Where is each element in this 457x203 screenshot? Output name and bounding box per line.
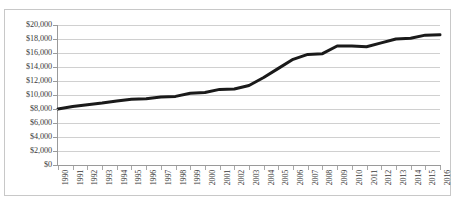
x-axis-tick [322, 166, 323, 170]
y-axis-tick [53, 67, 58, 68]
x-axis-tick [234, 166, 235, 170]
x-axis-tick [425, 166, 426, 170]
x-axis-tick [131, 166, 132, 170]
x-axis-tick [367, 166, 368, 170]
x-axis-tick [337, 166, 338, 170]
y-axis-tick [53, 151, 58, 152]
y-axis-tick [53, 137, 58, 138]
x-axis-tick [352, 166, 353, 170]
x-axis-tick [220, 166, 221, 170]
x-axis-tick [278, 166, 279, 170]
x-axis-tick [73, 166, 74, 170]
x-axis-tick [308, 166, 309, 170]
data-series-line [0, 0, 457, 203]
y-axis-tick [53, 123, 58, 124]
x-axis-tick [293, 166, 294, 170]
y-axis-tick [53, 81, 58, 82]
x-axis-tick [190, 166, 191, 170]
x-axis-tick [58, 166, 59, 170]
x-axis-tick [146, 166, 147, 170]
x-axis-tick [176, 166, 177, 170]
x-axis-tick [87, 166, 88, 170]
x-axis-tick [440, 166, 441, 170]
x-axis-tick [264, 166, 265, 170]
x-axis-tick [396, 166, 397, 170]
x-axis-tick [117, 166, 118, 170]
x-axis-tick [249, 166, 250, 170]
chart-plot-area: $20,000$18,000$16,000$14,000$12,000$10,0… [0, 0, 457, 203]
x-axis-tick [381, 166, 382, 170]
y-axis-tick [53, 25, 58, 26]
y-axis-tick [53, 53, 58, 54]
y-axis-tick [53, 109, 58, 110]
y-axis-tick [53, 95, 58, 96]
x-axis-tick [205, 166, 206, 170]
x-axis-tick [161, 166, 162, 170]
x-axis-tick [102, 166, 103, 170]
x-axis-tick [411, 166, 412, 170]
y-axis-tick [53, 39, 58, 40]
